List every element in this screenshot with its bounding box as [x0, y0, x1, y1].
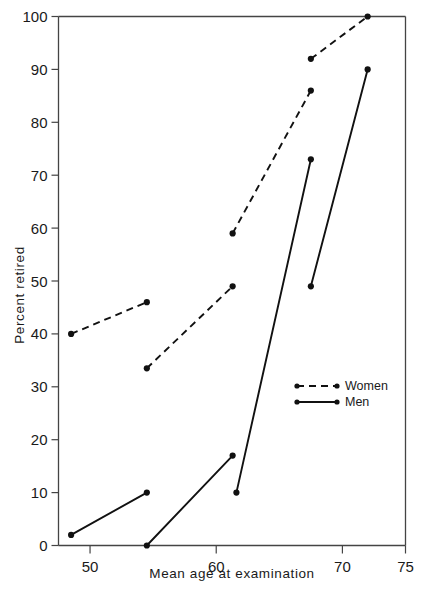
data-point-women [144, 299, 150, 305]
data-point-women [230, 230, 236, 236]
data-point-women [230, 283, 236, 289]
data-point-women [68, 331, 74, 337]
data-point-men [230, 452, 236, 458]
series-segment-men [71, 493, 147, 535]
series-segment-men [147, 456, 233, 546]
data-point-women [144, 365, 150, 371]
series-segment-women [147, 286, 233, 368]
y-tick-label: 80 [31, 114, 48, 131]
plot-frame [59, 17, 406, 546]
data-point-men [308, 283, 314, 289]
data-point-men [144, 490, 150, 496]
y-tick-label: 40 [31, 325, 48, 342]
series-men [68, 66, 371, 548]
data-point-men [308, 156, 314, 162]
y-tick-label: 10 [31, 484, 48, 501]
y-tick-label: 50 [31, 273, 48, 290]
data-point-men [233, 490, 239, 496]
series-women [68, 13, 371, 371]
legend-swatch-women-marker-end [334, 383, 339, 388]
data-point-women [308, 87, 314, 93]
y-tick-label: 100 [22, 8, 47, 25]
x-axis-ticks [90, 546, 405, 554]
y-tick-label: 70 [31, 167, 48, 184]
y-tick-label: 20 [31, 431, 48, 448]
x-axis-title: Mean age at examination [149, 566, 314, 581]
series-segment-women [311, 17, 368, 59]
series-segment-women [71, 302, 147, 334]
y-tick-label: 0 [39, 537, 47, 554]
x-tick-label: 75 [397, 558, 414, 575]
data-point-women [308, 56, 314, 62]
data-point-women [365, 13, 371, 19]
chart-legend: Women Men [294, 379, 387, 409]
data-point-men [144, 542, 150, 548]
data-point-men [68, 532, 74, 538]
legend-swatch-women-marker-start [294, 383, 299, 388]
legend-entry-women: Women [294, 379, 387, 393]
y-axis-title: Percent retired [12, 246, 27, 344]
legend-swatch-men-marker-end [334, 399, 339, 404]
data-point-men [365, 66, 371, 72]
y-tick-label: 60 [31, 220, 48, 237]
legend-entry-men: Men [294, 395, 369, 409]
series-segment-men [236, 159, 310, 492]
legend-label-women: Women [345, 379, 388, 393]
y-axis-ticks [52, 17, 59, 546]
legend-label-men: Men [345, 395, 369, 409]
x-tick-label: 70 [334, 558, 351, 575]
y-tick-label: 90 [31, 61, 48, 78]
x-tick-label: 50 [82, 558, 99, 575]
y-tick-label: 30 [31, 378, 48, 395]
percent-retired-by-age-line-chart: 0102030405060708090100 50607075 Mean age… [0, 0, 423, 593]
legend-swatch-men-marker-start [294, 399, 299, 404]
series-segment-men [311, 69, 368, 286]
chart-figure: 0102030405060708090100 50607075 Mean age… [0, 0, 423, 593]
data-series-layer [68, 13, 371, 548]
